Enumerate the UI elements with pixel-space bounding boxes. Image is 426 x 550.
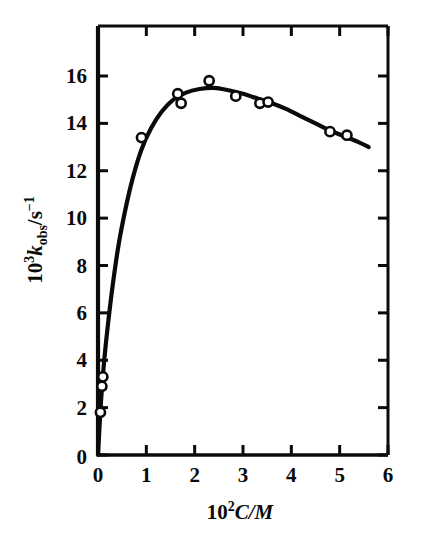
y-axis-tick-labels: 0246810121416 xyxy=(66,64,88,469)
data-point-marker xyxy=(98,372,107,381)
data-point-marker xyxy=(137,133,146,142)
fitted-curve xyxy=(98,88,369,455)
y-tick-label-6: 6 xyxy=(77,301,88,325)
data-point-marker xyxy=(342,131,351,140)
chart-canvas: 0123456 0246810121416 102C/M 103kobs/s−1 xyxy=(0,0,426,550)
y-axis-title: 103kobs/s−1 xyxy=(22,196,50,284)
y-tick-label-10: 10 xyxy=(66,206,87,230)
data-point-marker xyxy=(231,92,240,101)
x-tick-label-5: 5 xyxy=(334,463,345,487)
data-point-markers xyxy=(96,76,352,417)
data-point-marker xyxy=(325,127,334,136)
data-point-marker xyxy=(173,89,182,98)
data-point-marker xyxy=(97,382,106,391)
y-axis-title-variable: k xyxy=(23,245,47,256)
x-tick-label-1: 1 xyxy=(141,463,152,487)
figure-container: 0123456 0246810121416 102C/M 103kobs/s−1 xyxy=(0,0,426,550)
x-axis-title-exponent: 2 xyxy=(228,499,235,514)
x-tick-label-3: 3 xyxy=(238,463,249,487)
y-axis-title-base: 10 xyxy=(23,263,47,284)
svg-text:103kobs/s−1: 103kobs/s−1 xyxy=(22,196,50,284)
y-axis-title-units-exponent: −1 xyxy=(22,196,37,211)
y-axis-title-exponent: 3 xyxy=(22,256,37,263)
y-tick-label-8: 8 xyxy=(77,254,88,278)
y-axis-title-units: /s xyxy=(23,211,47,226)
plot-frame xyxy=(98,26,388,455)
y-axis-title-subscript: obs xyxy=(35,225,50,246)
x-axis-tick-labels: 0123456 xyxy=(93,463,394,487)
svg-text:102C/M: 102C/M xyxy=(207,499,275,524)
x-tick-label-4: 4 xyxy=(286,463,297,487)
x-tick-label-2: 2 xyxy=(189,463,200,487)
y-tick-label-2: 2 xyxy=(77,396,88,420)
fitted-curve-path xyxy=(98,88,369,455)
x-axis-title-base: 10 xyxy=(207,500,228,524)
axis-ticks xyxy=(98,26,388,455)
y-tick-label-14: 14 xyxy=(66,111,88,135)
y-tick-label-4: 4 xyxy=(77,348,88,372)
y-tick-label-0: 0 xyxy=(77,445,88,469)
y-tick-label-12: 12 xyxy=(66,159,87,183)
x-tick-label-0: 0 xyxy=(93,463,104,487)
x-axis-title-variable: C/M xyxy=(235,500,275,524)
data-point-marker xyxy=(96,408,105,417)
y-tick-label-16: 16 xyxy=(66,64,87,88)
data-point-marker xyxy=(264,97,273,106)
data-point-marker xyxy=(177,99,186,108)
x-axis-title: 102C/M xyxy=(207,499,275,524)
x-tick-label-6: 6 xyxy=(383,463,394,487)
data-point-marker xyxy=(205,76,214,85)
